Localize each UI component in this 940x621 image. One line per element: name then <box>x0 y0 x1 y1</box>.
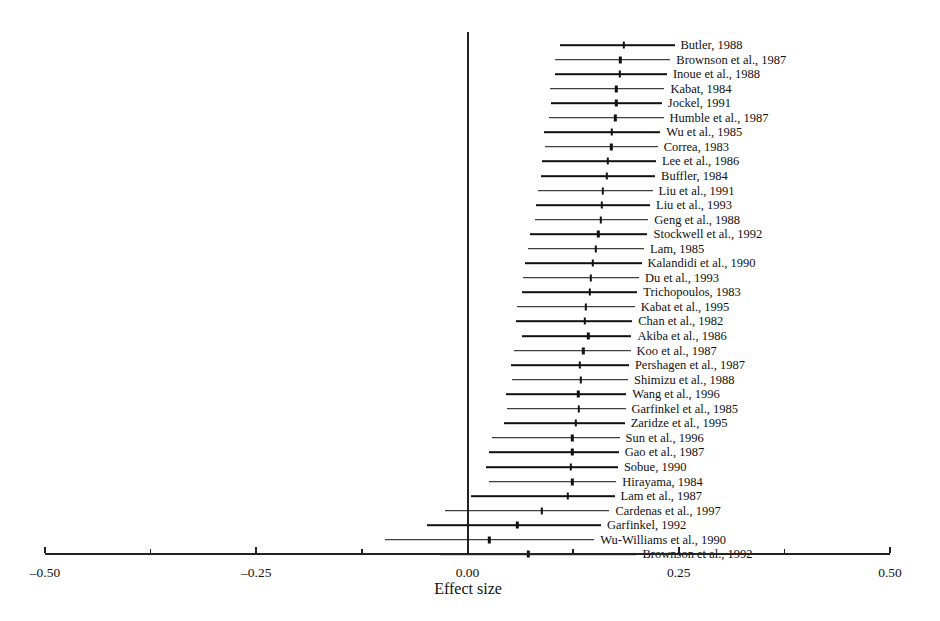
confidence-interval-bar <box>517 306 635 308</box>
study-label: Koo et al., 1987 <box>637 344 717 357</box>
study-label: Wu et al., 1985 <box>666 126 742 139</box>
study-label: Chan et al., 1982 <box>638 315 723 328</box>
point-estimate-marker <box>488 536 490 543</box>
point-estimate-marker <box>577 391 579 398</box>
point-estimate-marker <box>590 274 592 281</box>
confidence-interval-bar <box>486 466 618 468</box>
study-label: Zaridze et al., 1995 <box>631 417 728 430</box>
confidence-interval-bar <box>551 102 662 104</box>
point-estimate-marker <box>580 376 582 383</box>
confidence-interval-bar <box>445 510 610 512</box>
confidence-interval-bar <box>489 481 617 483</box>
study-label: Kabat, 1984 <box>670 82 731 95</box>
x-axis-tick-label: 0.25 <box>667 565 691 581</box>
study-label: Hirayama, 1984 <box>622 475 703 488</box>
study-label: Garfinkel, 1992 <box>607 519 686 532</box>
point-estimate-marker <box>601 187 603 194</box>
point-estimate-marker <box>611 129 613 136</box>
study-label: Liu et al., 1993 <box>656 199 732 212</box>
point-estimate-marker <box>516 522 518 529</box>
study-label: Correa, 1983 <box>664 141 729 154</box>
point-estimate-marker <box>579 362 581 369</box>
point-estimate-marker <box>591 260 593 267</box>
point-estimate-marker <box>614 114 616 121</box>
point-estimate-marker <box>587 333 589 340</box>
point-estimate-marker <box>618 71 620 78</box>
x-axis-tick <box>44 547 46 553</box>
confidence-interval-bar <box>555 59 671 61</box>
x-axis-tick <box>678 547 680 553</box>
confidence-interval-bar <box>541 175 655 177</box>
study-label: Liu et al., 1991 <box>659 184 735 197</box>
point-estimate-marker <box>541 507 543 514</box>
point-estimate-marker <box>615 100 617 107</box>
study-label: Sun et al., 1996 <box>626 432 704 445</box>
x-axis-title: Effect size <box>434 580 502 598</box>
confidence-interval-bar <box>427 524 601 526</box>
point-estimate-marker <box>601 202 603 209</box>
point-estimate-marker <box>567 493 569 500</box>
confidence-interval-bar <box>522 292 637 294</box>
point-estimate-marker <box>584 318 586 325</box>
confidence-interval-bar <box>492 437 620 439</box>
x-axis-minor-tick <box>150 549 152 553</box>
point-estimate-marker <box>578 405 580 412</box>
confidence-interval-bar <box>535 219 648 221</box>
study-label: Cardenas et al., 1997 <box>615 504 720 517</box>
x-axis-tick <box>255 547 257 553</box>
confidence-interval-bar <box>514 350 631 352</box>
point-estimate-marker <box>619 56 621 63</box>
confidence-interval-bar <box>545 146 657 148</box>
x-axis-minor-tick <box>572 549 574 553</box>
study-label: Lam, 1985 <box>650 242 704 255</box>
point-estimate-marker <box>597 231 599 238</box>
x-axis-tick-label: –0.25 <box>241 565 271 581</box>
confidence-interval-bar <box>504 423 625 425</box>
study-label: Shimizu et al., 1988 <box>634 373 734 386</box>
study-label: Pershagen et al., 1987 <box>635 359 745 372</box>
study-label: Wu-Williams et al., 1990 <box>600 533 726 546</box>
confidence-interval-bar <box>550 88 664 90</box>
study-label: Brownson et al., 1987 <box>676 53 786 66</box>
confidence-interval-bar <box>471 495 615 497</box>
point-estimate-marker <box>607 158 609 165</box>
point-estimate-marker <box>585 303 587 310</box>
x-axis-minor-tick <box>784 549 786 553</box>
point-estimate-marker <box>571 478 573 485</box>
confidence-interval-bar <box>560 44 675 46</box>
confidence-interval-bar <box>549 117 664 119</box>
study-label: Gao et al., 1987 <box>625 446 705 459</box>
confidence-interval-bar <box>512 379 628 381</box>
study-label: Humble et al., 1987 <box>670 112 769 125</box>
point-estimate-marker <box>595 245 597 252</box>
x-axis-line <box>45 553 890 555</box>
study-label: Wang et al., 1996 <box>632 388 720 401</box>
x-axis-tick <box>889 547 891 553</box>
confidence-interval-bar <box>544 132 661 134</box>
point-estimate-marker <box>600 216 602 223</box>
confidence-interval-bar <box>522 335 632 337</box>
reference-line-zero <box>467 32 469 553</box>
x-axis-minor-tick <box>361 549 363 553</box>
study-label: Kalandidi et al., 1990 <box>648 257 756 270</box>
x-axis-tick-label: –0.50 <box>30 565 60 581</box>
point-estimate-marker <box>589 289 591 296</box>
study-label: Trichopoulos, 1983 <box>643 286 740 299</box>
point-estimate-marker <box>582 347 584 354</box>
confidence-interval-bar <box>525 262 642 264</box>
confidence-interval-bar <box>506 393 626 395</box>
study-label: Du et al., 1993 <box>645 272 719 285</box>
x-axis-tick-label: 0.00 <box>456 565 480 581</box>
point-estimate-marker <box>610 143 612 150</box>
confidence-interval-bar <box>511 364 629 366</box>
study-label: Stockwell et al., 1992 <box>653 228 762 241</box>
confidence-interval-bar <box>530 233 647 235</box>
confidence-interval-bar <box>555 73 667 75</box>
point-estimate-marker <box>623 42 625 49</box>
study-label: Inoue et al., 1988 <box>673 68 760 81</box>
study-label: Sobue, 1990 <box>624 461 687 474</box>
point-estimate-marker <box>574 420 576 427</box>
study-label: Jockel, 1991 <box>668 97 731 110</box>
point-estimate-marker <box>571 434 573 441</box>
confidence-interval-bar <box>523 277 639 279</box>
